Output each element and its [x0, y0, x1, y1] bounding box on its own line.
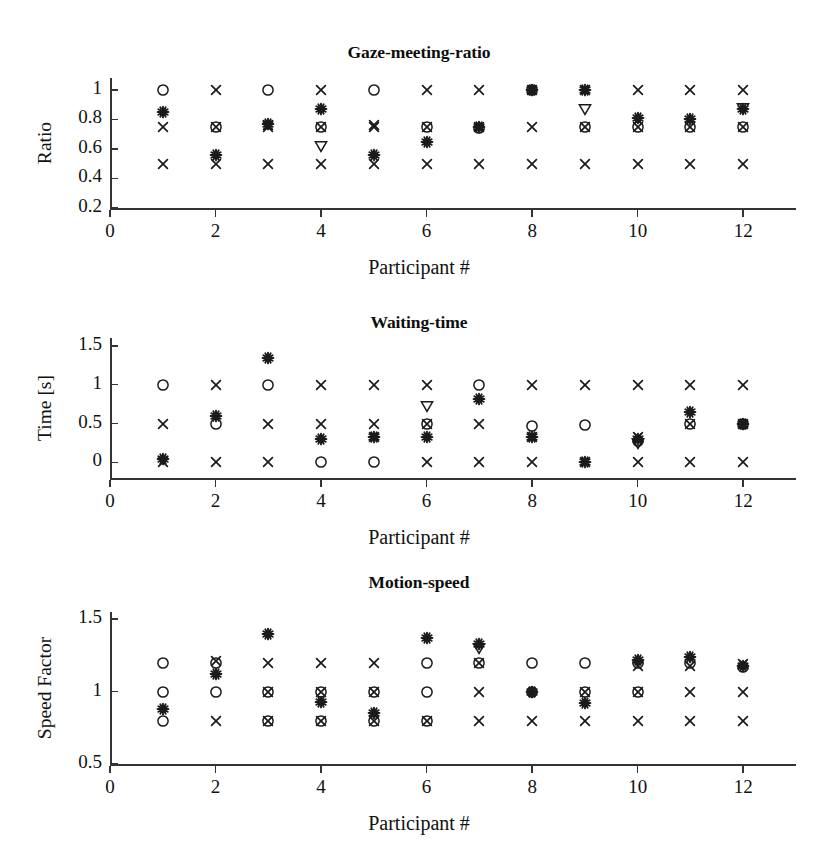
x-axis-tick [426, 210, 428, 217]
x-axis-tick-label: 2 [186, 220, 246, 242]
data-point-cross [629, 712, 647, 730]
data-point-cross [681, 155, 699, 173]
data-point-cross [207, 453, 225, 471]
data-point-cross [523, 155, 541, 173]
data-point-circle [154, 376, 172, 394]
data-point-cross [259, 453, 277, 471]
data-point-circle [154, 654, 172, 672]
chart-title: Motion-speed [0, 572, 838, 593]
x-axis-tick-label: 8 [502, 490, 562, 512]
x-axis-tick [320, 210, 322, 217]
data-point-cross [470, 683, 488, 701]
data-point-asterisk [207, 146, 225, 164]
data-point-cross [576, 155, 594, 173]
data-point-cross [681, 81, 699, 99]
x-axis-tick [531, 766, 533, 773]
x-axis-tick [109, 766, 111, 773]
x-axis-line [110, 764, 796, 766]
data-point-cross [207, 712, 225, 730]
chart-title: Gaze-meeting-ratio [0, 42, 838, 63]
data-point-cross [259, 683, 277, 701]
data-point-asterisk [154, 450, 172, 468]
data-point-cross [523, 118, 541, 136]
y-axis-label: Time [s] [34, 375, 56, 441]
data-point-circle [154, 683, 172, 701]
y-axis-tick-label: 0 [38, 449, 102, 471]
data-point-asterisk [681, 403, 699, 421]
data-point-cross [365, 683, 383, 701]
x-axis-tick [637, 766, 639, 773]
y-axis-line [110, 78, 112, 210]
data-point-circle [418, 683, 436, 701]
x-axis-line [110, 208, 796, 210]
x-axis-line [110, 478, 796, 480]
plot-area: 02468101200.511.5Time [s]Participant # [110, 338, 796, 478]
y-axis-tick-label: 0.4 [38, 165, 102, 187]
data-point-cross [312, 712, 330, 730]
x-axis-tick-label: 2 [186, 776, 246, 798]
data-point-circle [207, 683, 225, 701]
y-axis-label: Ratio [34, 122, 56, 164]
y-axis-tick [111, 345, 118, 347]
y-axis-tick [111, 148, 118, 150]
x-axis-tick-label: 6 [397, 220, 457, 242]
x-axis-tick [742, 766, 744, 773]
x-axis-tick-label: 2 [186, 490, 246, 512]
y-axis-tick [111, 207, 118, 209]
data-point-triangle-down [418, 397, 436, 415]
data-point-asterisk [418, 133, 436, 151]
data-point-cross [312, 118, 330, 136]
data-point-circle [259, 81, 277, 99]
y-axis-line [110, 612, 112, 766]
data-point-cross [629, 155, 647, 173]
y-axis-label: Speed Factor [34, 637, 56, 739]
data-point-asterisk [523, 81, 541, 99]
data-point-cross [365, 116, 383, 134]
data-point-cross [470, 415, 488, 433]
x-axis-tick [109, 210, 111, 217]
x-axis-tick-label: 0 [80, 776, 140, 798]
data-point-circle [523, 654, 541, 672]
data-point-cross [681, 683, 699, 701]
x-axis-tick-label: 8 [502, 776, 562, 798]
x-axis-tick [531, 210, 533, 217]
data-point-asterisk [681, 110, 699, 128]
data-point-asterisk [259, 115, 277, 133]
x-axis-tick-label: 0 [80, 490, 140, 512]
data-point-cross [629, 376, 647, 394]
data-point-triangle-down [734, 99, 752, 117]
data-point-cross [259, 654, 277, 672]
data-point-cross [470, 712, 488, 730]
y-axis-tick [111, 89, 118, 91]
data-point-cross [576, 712, 594, 730]
x-axis-tick [426, 480, 428, 487]
x-axis-tick [109, 480, 111, 487]
x-axis-tick-label: 12 [713, 776, 773, 798]
y-axis-tick-label: 0.5 [38, 751, 102, 773]
data-point-cross [418, 81, 436, 99]
data-point-cross [523, 376, 541, 394]
y-axis-tick [111, 763, 118, 765]
data-point-cross [312, 654, 330, 672]
data-point-cross [207, 376, 225, 394]
data-point-cross [470, 155, 488, 173]
data-point-asterisk [734, 415, 752, 433]
data-point-asterisk [576, 694, 594, 712]
data-point-cross [470, 453, 488, 471]
data-point-asterisk [470, 118, 488, 136]
data-point-cross [629, 81, 647, 99]
x-axis-label: Participant # [0, 526, 838, 549]
data-point-cross [312, 155, 330, 173]
y-axis-tick [111, 618, 118, 620]
x-axis-tick [742, 210, 744, 217]
data-point-cross [207, 118, 225, 136]
data-point-asterisk [576, 81, 594, 99]
data-point-asterisk [207, 665, 225, 683]
data-point-asterisk [418, 629, 436, 647]
x-axis-tick-label: 6 [397, 490, 457, 512]
y-axis-tick-label: 1.5 [38, 606, 102, 628]
data-point-cross [312, 376, 330, 394]
data-point-cross [154, 155, 172, 173]
data-point-cross [734, 118, 752, 136]
x-axis-tick-label: 4 [291, 220, 351, 242]
